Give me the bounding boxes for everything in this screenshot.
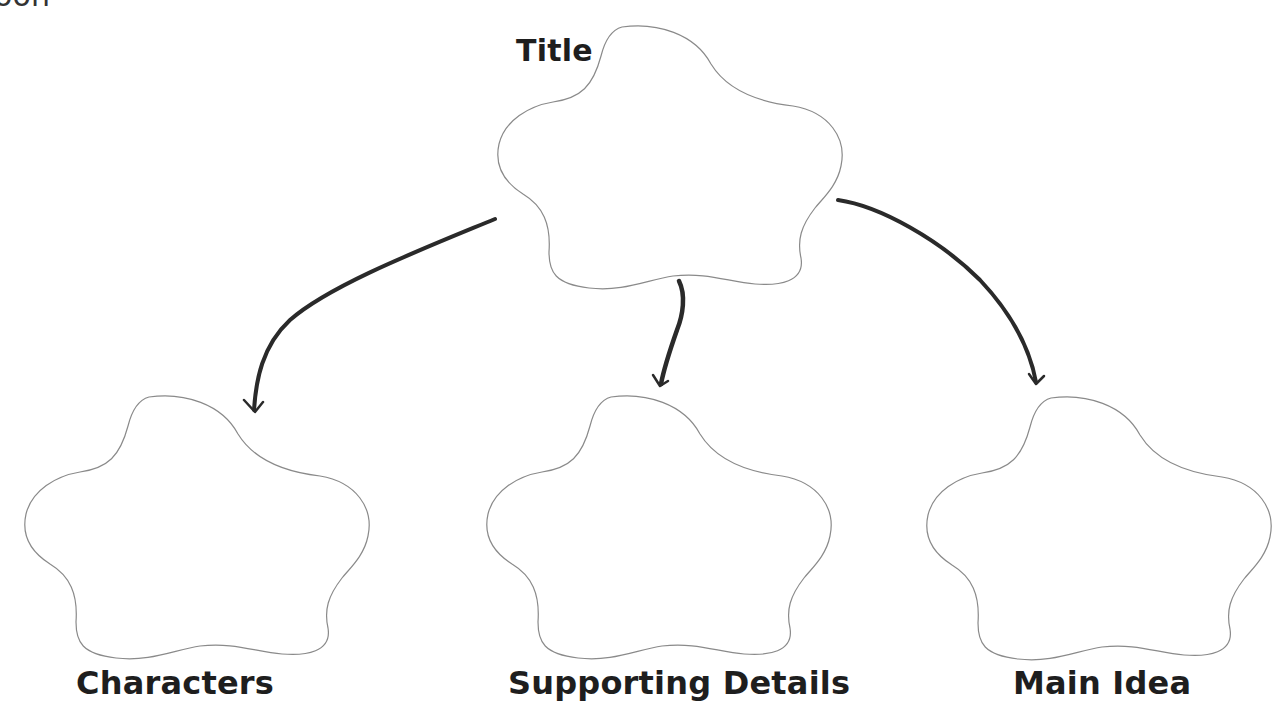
arrow-to-main-idea bbox=[838, 200, 1044, 384]
cut-off-text: oon bbox=[0, 0, 50, 13]
node-label-title: Title bbox=[516, 33, 593, 68]
node-label-main-idea: Main Idea bbox=[1013, 664, 1191, 702]
node-label-supporting-details: Supporting Details bbox=[508, 664, 850, 702]
diagram-svg bbox=[0, 0, 1286, 717]
graphic-organizer: oon Title Characters Supporting Details … bbox=[0, 0, 1286, 717]
arrow-to-supporting-details bbox=[653, 281, 683, 386]
flower-node-main-idea bbox=[927, 397, 1271, 660]
flower-node-characters bbox=[25, 396, 369, 659]
arrow-to-characters bbox=[244, 219, 495, 412]
node-label-characters: Characters bbox=[76, 664, 274, 702]
flower-node-supporting-details bbox=[487, 396, 831, 659]
